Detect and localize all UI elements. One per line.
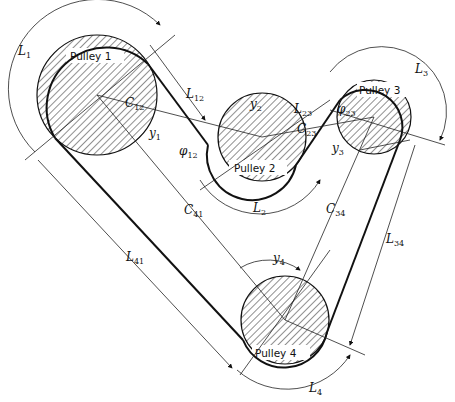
label-L4: L4	[308, 381, 322, 397]
label-y4: y4	[272, 251, 285, 267]
label-L41: L41	[125, 250, 144, 266]
label-phi12: φ12	[179, 144, 198, 160]
belt-drive-diagram: Pulley 1 Pulley 2 Pulley 3 Pulley 4	[0, 0, 455, 402]
label-L2: L2	[252, 201, 266, 217]
label-y1: y1	[148, 126, 161, 142]
label-L1: L1	[17, 44, 31, 60]
label-y3: y3	[331, 141, 344, 157]
label-C23: C23	[297, 122, 316, 138]
label-L23: L23	[293, 102, 312, 118]
label-C41: C41	[184, 203, 203, 219]
label-L34: L34	[385, 232, 404, 248]
label-L12: L12	[185, 87, 204, 103]
pulley-2-label: Pulley 2	[234, 162, 275, 174]
pulley-4-label: Pulley 4	[255, 347, 297, 359]
